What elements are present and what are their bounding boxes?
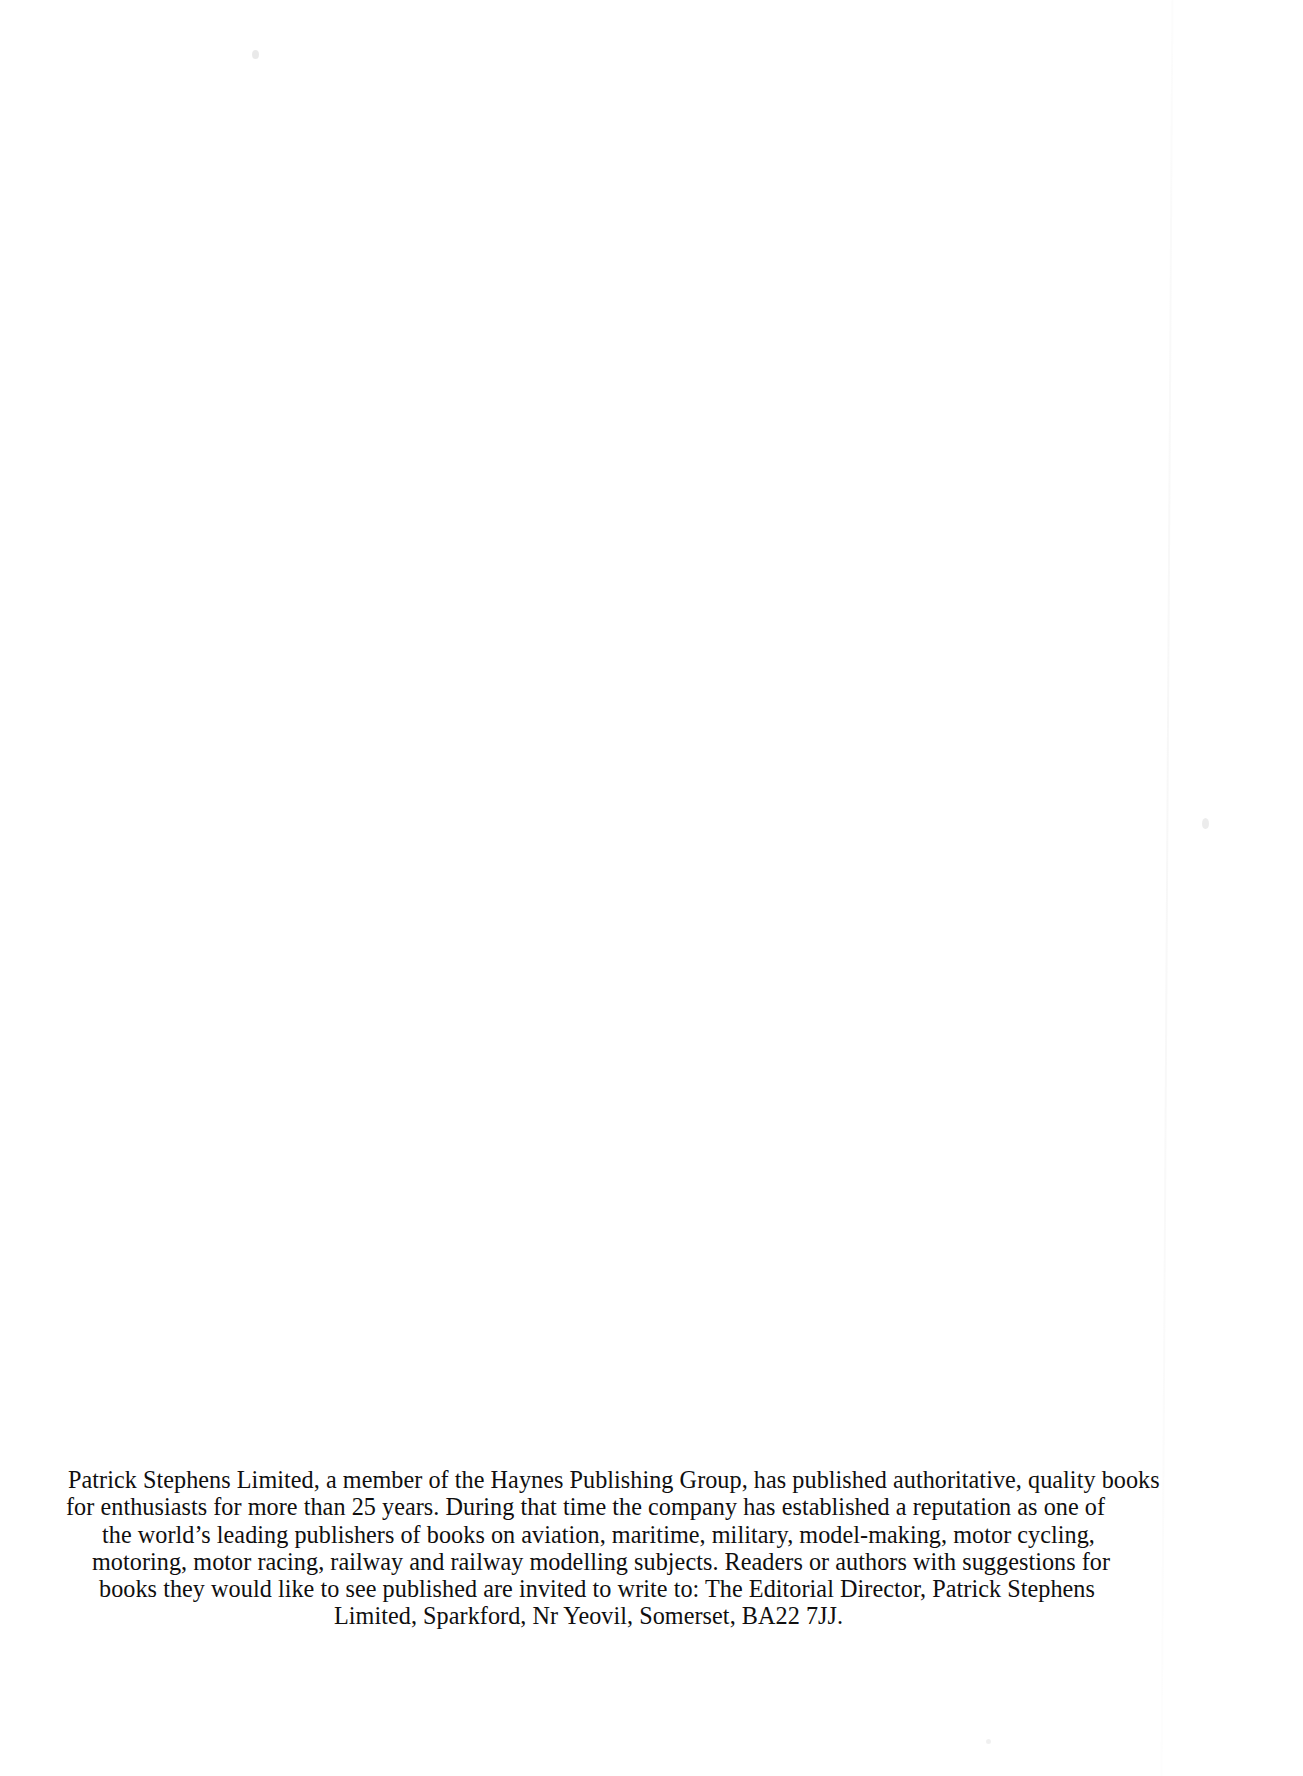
dust-speck-bottom-right-icon xyxy=(986,1739,991,1744)
publisher-note-line-1: Patrick Stephens Limited, a member of th… xyxy=(66,1466,1141,1493)
scanned-page: Patrick Stephens Limited, a member of th… xyxy=(0,0,1303,1776)
publisher-note: Patrick Stephens Limited, a member of th… xyxy=(66,1466,1141,1630)
publisher-note-line-2: for enthusiasts for more than 25 years. … xyxy=(66,1493,1141,1520)
blank-page-area xyxy=(0,0,1303,1455)
publisher-note-line-5: books they would like to see published a… xyxy=(66,1575,1141,1602)
publisher-note-line-6: Limited, Sparkford, Nr Yeovil, Somerset,… xyxy=(66,1602,1141,1629)
publisher-note-line-3: the world’s leading publishers of books … xyxy=(66,1521,1141,1548)
publisher-note-line-4: motoring, motor racing, railway and rail… xyxy=(66,1548,1141,1575)
